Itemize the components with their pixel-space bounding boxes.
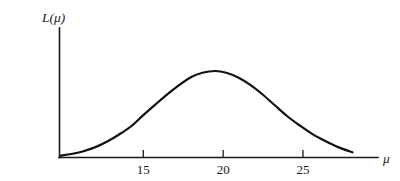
likelihood-function-figure: 15 20 25 L(μ) μ — [0, 0, 400, 181]
x-tick-label-15: 15 — [137, 162, 150, 177]
x-tick-label-20: 20 — [217, 162, 230, 177]
x-tick-label-25: 25 — [296, 162, 309, 177]
x-axis-label: μ — [382, 151, 390, 166]
y-axis-label: L(μ) — [41, 10, 66, 25]
likelihood-curve — [60, 71, 352, 156]
plot-canvas: 15 20 25 L(μ) μ — [0, 0, 400, 181]
